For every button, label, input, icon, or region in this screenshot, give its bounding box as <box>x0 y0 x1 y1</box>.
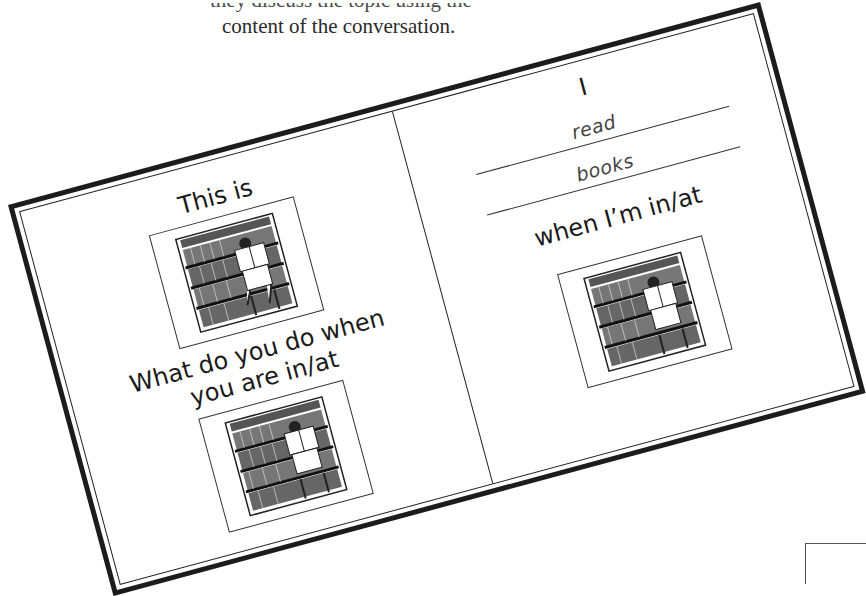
caption-clipped-line: they discuss the topic using the <box>210 0 472 13</box>
library-reading-icon <box>223 394 349 518</box>
conversation-card: This is <box>8 2 866 596</box>
page-corner-box <box>805 543 866 584</box>
library-reading-icon <box>173 211 299 335</box>
library-reading-icon <box>582 250 708 374</box>
card-inner-border: This is <box>19 13 855 585</box>
library-image-frame <box>557 235 733 388</box>
caption-line: content of the conversation. <box>222 14 455 39</box>
